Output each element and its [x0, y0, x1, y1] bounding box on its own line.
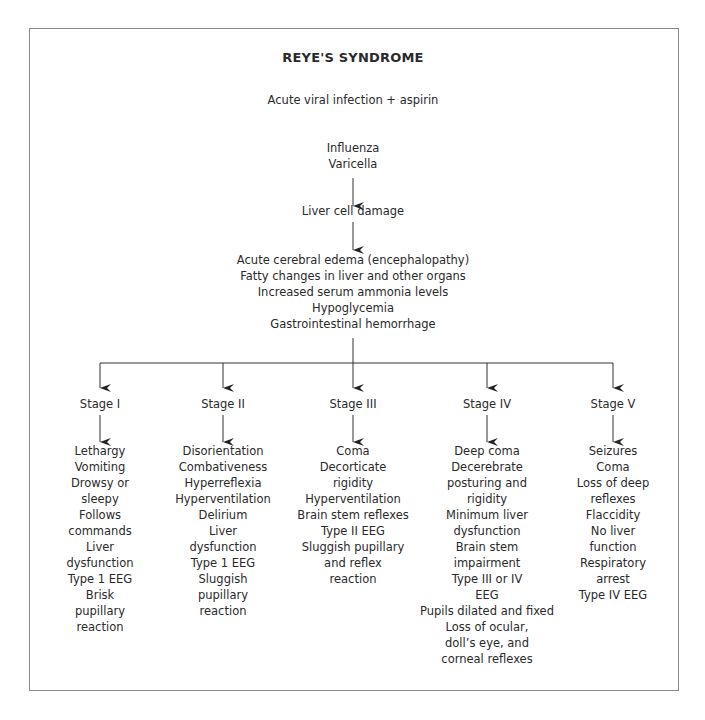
symptom-item: Type II EEG	[297, 523, 408, 539]
stage-3-label: Stage III	[329, 396, 376, 412]
effects-node: Acute cerebral edema (encephalopathy) Fa…	[237, 252, 469, 332]
symptom-item: Hyperventilation	[175, 491, 271, 507]
symptom-item: arrest	[577, 571, 649, 587]
symptom-item: Liver	[175, 523, 271, 539]
symptom-item: Vomiting	[66, 459, 133, 475]
symptom-item: reaction	[66, 619, 133, 635]
symptom-item: pupillary	[175, 587, 271, 603]
symptom-item: dysfunction	[66, 555, 133, 571]
symptom-item: function	[577, 539, 649, 555]
symptom-item: Decerebrate	[420, 459, 554, 475]
symptom-item: reflexes	[577, 491, 649, 507]
symptom-item: Delirium	[175, 507, 271, 523]
symptom-item: No liver	[577, 523, 649, 539]
symptom-item: rigidity	[297, 475, 408, 491]
symptom-item: sleepy	[66, 491, 133, 507]
symptom-item: Decorticate	[297, 459, 408, 475]
infections-node: Influenza Varicella	[327, 140, 380, 172]
symptom-item: reaction	[175, 603, 271, 619]
symptom-item: dysfunction	[175, 539, 271, 555]
symptom-item: Follows	[66, 507, 133, 523]
symptom-item: Hyperventilation	[297, 491, 408, 507]
infection-item: Varicella	[327, 156, 380, 172]
symptom-item: Deep coma	[420, 443, 554, 459]
effect-item: Increased serum ammonia levels	[237, 284, 469, 300]
symptom-item: dysfunction	[420, 523, 554, 539]
symptom-item: Hyperreflexia	[175, 475, 271, 491]
effect-item: Gastrointestinal hemorrhage	[237, 316, 469, 332]
symptom-item: Respiratory	[577, 555, 649, 571]
symptom-item: Brain stem reflexes	[297, 507, 408, 523]
symptom-item: Coma	[297, 443, 408, 459]
stage-1-symptoms: Lethargy Vomiting Drowsy or sleepy Follo…	[66, 443, 133, 635]
stage-2-label: Stage II	[201, 396, 245, 412]
effect-item: Fatty changes in liver and other organs	[237, 268, 469, 284]
effect-item: Hypoglycemia	[237, 300, 469, 316]
symptom-item: reaction	[297, 571, 408, 587]
symptom-item: posturing and	[420, 475, 554, 491]
symptom-item: doll’s eye, and	[420, 635, 554, 651]
symptom-item: Brain stem	[420, 539, 554, 555]
symptom-item: corneal reflexes	[420, 651, 554, 667]
symptom-item: EEG	[420, 587, 554, 603]
symptom-item: Minimum liver	[420, 507, 554, 523]
stage-2-symptoms: Disorientation Combativeness Hyperreflex…	[175, 443, 271, 619]
symptom-item: and reflex	[297, 555, 408, 571]
symptom-item: rigidity	[420, 491, 554, 507]
symptom-item: Loss of ocular,	[420, 619, 554, 635]
symptom-item: commands	[66, 523, 133, 539]
liver-damage-node: Liver cell damage	[302, 203, 404, 219]
symptom-item: Type 1 EEG	[175, 555, 271, 571]
symptom-item: Drowsy or	[66, 475, 133, 491]
diagram-title: REYE'S SYNDROME	[282, 50, 423, 66]
effect-item: Acute cerebral edema (encephalopathy)	[237, 252, 469, 268]
symptom-item: Sluggish pupillary	[297, 539, 408, 555]
stage-5-label: Stage V	[591, 396, 636, 412]
stage-4-symptoms: Deep coma Decerebrate posturing and rigi…	[420, 443, 554, 667]
infection-item: Influenza	[327, 140, 380, 156]
symptom-item: Lethargy	[66, 443, 133, 459]
symptom-item: Coma	[577, 459, 649, 475]
symptom-item: Liver	[66, 539, 133, 555]
symptom-item: Type 1 EEG	[66, 571, 133, 587]
symptom-item: Sluggish	[175, 571, 271, 587]
symptom-item: Type III or IV	[420, 571, 554, 587]
symptom-item: Brisk	[66, 587, 133, 603]
symptom-item: pupillary	[66, 603, 133, 619]
symptom-item: impairment	[420, 555, 554, 571]
symptom-item: Type IV EEG	[577, 587, 649, 603]
symptom-item: Seizures	[577, 443, 649, 459]
trigger-node: Acute viral infection + aspirin	[268, 92, 439, 108]
stage-4-label: Stage IV	[463, 396, 511, 412]
stage-3-symptoms: Coma Decorticate rigidity Hyperventilati…	[297, 443, 408, 587]
symptom-item: Flaccidity	[577, 507, 649, 523]
stage-5-symptoms: Seizures Coma Loss of deep reflexes Flac…	[577, 443, 649, 603]
symptom-item: Combativeness	[175, 459, 271, 475]
symptom-item: Disorientation	[175, 443, 271, 459]
symptom-item: Pupils dilated and fixed	[420, 603, 554, 619]
stage-1-label: Stage I	[80, 396, 120, 412]
symptom-item: Loss of deep	[577, 475, 649, 491]
